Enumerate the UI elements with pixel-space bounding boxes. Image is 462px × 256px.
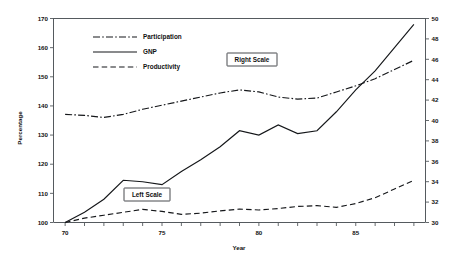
right-tick-label: 50: [432, 15, 439, 22]
right-tick-label: 40: [432, 117, 439, 124]
series-line-participation: [65, 60, 414, 117]
legend: Participation GNP Productivity: [93, 33, 182, 71]
left-tick-label: 160: [38, 44, 49, 51]
axes-group: [54, 18, 426, 223]
left-tick-label: 120: [38, 160, 49, 167]
right-tick-label: 46: [432, 56, 439, 63]
x-tick-label: 85: [352, 229, 359, 236]
right-tick-label: 44: [432, 76, 439, 83]
right-tick-label: 36: [432, 158, 439, 165]
annotation-right-scale-label: Right Scale: [235, 56, 270, 64]
x-tick-label: 70: [62, 229, 69, 236]
legend-entry-gnp: GNP: [93, 48, 158, 55]
legend-entry-productivity: Productivity: [93, 63, 180, 71]
line-chart-canvas: 100110120130140150160170 303234363840424…: [0, 0, 462, 256]
annotation-left-scale-label: Left Scale: [132, 191, 163, 198]
annotation-right-scale: Right Scale: [227, 53, 277, 66]
right-tick-label: 30: [432, 219, 439, 226]
left-tick-label: 170: [38, 15, 49, 22]
right-tick-label: 32: [432, 198, 439, 205]
annotation-left-scale: Left Scale: [124, 188, 170, 201]
legend-label-gnp: GNP: [143, 48, 158, 55]
x-tick-label: 80: [255, 229, 262, 236]
left-tick-label: 140: [38, 102, 49, 109]
chart-figure: 100110120130140150160170 303234363840424…: [0, 0, 462, 256]
right-axis-ticks: 3032343638404244464850: [426, 15, 439, 226]
left-tick-label: 150: [38, 73, 49, 80]
y-axis-title: Percentage: [16, 111, 23, 145]
left-tick-label: 110: [38, 190, 49, 197]
x-tick-label: 75: [159, 229, 166, 236]
right-tick-label: 34: [432, 178, 439, 185]
legend-label-participation: Participation: [143, 33, 182, 41]
right-tick-label: 48: [432, 35, 439, 42]
x-axis-ticks: 70758085: [62, 223, 414, 236]
left-tick-label: 100: [38, 219, 49, 226]
left-tick-label: 130: [38, 131, 49, 138]
right-tick-label: 42: [432, 96, 439, 103]
left-axis-ticks: 100110120130140150160170: [38, 15, 54, 226]
x-axis-title: Year: [232, 244, 246, 251]
right-tick-label: 38: [432, 137, 439, 144]
legend-entry-participation: Participation: [93, 33, 182, 41]
legend-label-productivity: Productivity: [143, 63, 180, 71]
